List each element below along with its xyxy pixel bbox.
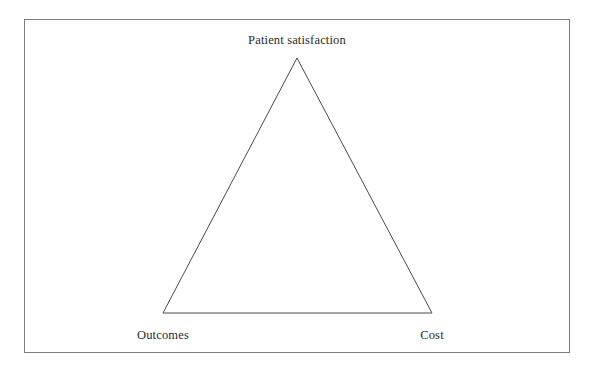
- vertex-label-outcomes: Outcomes: [63, 328, 263, 342]
- figure-border-frame: [24, 19, 570, 353]
- figure-root: Patient satisfaction Outcomes Cost: [0, 0, 594, 371]
- vertex-label-patient-satisfaction: Patient satisfaction: [0, 33, 594, 47]
- vertex-label-cost: Cost: [332, 328, 532, 342]
